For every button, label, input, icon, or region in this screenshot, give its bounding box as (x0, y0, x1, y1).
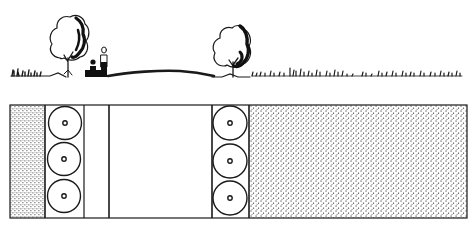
plan-view (10, 105, 467, 218)
grass-right (212, 68, 462, 77)
mound (108, 71, 214, 76)
tree-plan-icon (213, 144, 247, 178)
tree-plan-icon (213, 181, 247, 215)
tree-column-left (48, 107, 82, 213)
section-view (11, 15, 462, 77)
tree-plan-icon (213, 106, 247, 140)
tree-column-right (213, 106, 247, 215)
landscape-diagram (0, 0, 475, 229)
tree-plan-icon (48, 143, 81, 176)
people-icon (85, 47, 107, 77)
tree-plan-icon (48, 180, 81, 213)
stipple-right (249, 105, 467, 218)
stipple-left (10, 105, 45, 218)
standing-person (101, 47, 107, 70)
tree-plan-icon (49, 107, 82, 140)
grass-left (11, 69, 66, 77)
tree-right-icon (213, 26, 250, 77)
tree-left-icon (50, 15, 89, 77)
